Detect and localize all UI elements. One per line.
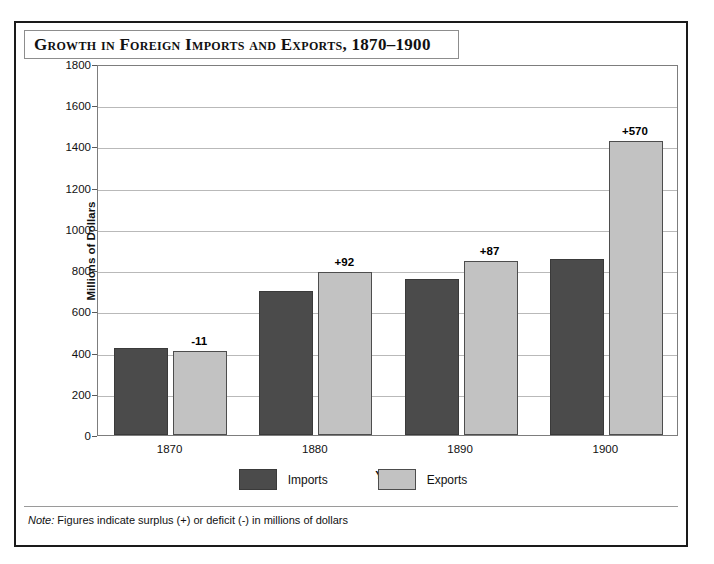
gridline <box>98 231 677 232</box>
y-tick-mark <box>92 271 97 272</box>
x-tick-label-1900: 1900 <box>545 443 665 455</box>
bar-annotation-1870: -11 <box>154 335 244 347</box>
y-tick-label: 1200 <box>31 183 91 195</box>
bar-exports-1870 <box>173 351 227 435</box>
y-tick-mark <box>92 189 97 190</box>
y-tick-mark <box>92 230 97 231</box>
bar-exports-1890 <box>464 261 518 435</box>
bar-imports-1870 <box>114 348 168 435</box>
y-tick-label: 1600 <box>31 100 91 112</box>
y-tick-label: 1000 <box>31 224 91 236</box>
y-tick-mark <box>92 354 97 355</box>
y-tick-label: 400 <box>31 348 91 360</box>
chart-legend: ImportsExports <box>16 469 690 490</box>
y-tick-mark <box>92 147 97 148</box>
y-tick-mark <box>92 312 97 313</box>
legend-label-exports: Exports <box>427 473 468 487</box>
plot-area <box>97 65 678 436</box>
bar-exports-1880 <box>318 272 372 435</box>
legend-entry-exports: Exports <box>378 469 468 490</box>
legend-label-imports: Imports <box>288 473 328 487</box>
gridline <box>98 190 677 191</box>
gridline <box>98 107 677 108</box>
plot-wrapper: Millions of Dollars 02004006008001000120… <box>97 65 678 436</box>
bar-annotation-1880: +92 <box>299 256 389 268</box>
y-tick-mark <box>92 395 97 396</box>
bar-imports-1900 <box>550 259 604 435</box>
bar-imports-1890 <box>405 279 459 435</box>
x-tick-label-1880: 1880 <box>255 443 375 455</box>
y-tick-label: 200 <box>31 389 91 401</box>
chart-note: Note: Figures indicate surplus (+) or de… <box>24 506 678 532</box>
y-tick-label: 1800 <box>31 59 91 71</box>
y-tick-label: 1400 <box>31 141 91 153</box>
bar-imports-1880 <box>259 291 313 435</box>
legend-swatch-imports <box>239 469 277 490</box>
y-tick-label: 600 <box>31 306 91 318</box>
y-tick-label: 0 <box>31 430 91 442</box>
legend-swatch-exports <box>378 469 416 490</box>
chart-figure: Growth in Foreign Imports and Exports, 1… <box>14 21 688 547</box>
bar-exports-1900 <box>609 141 663 435</box>
y-tick-mark <box>92 436 97 437</box>
bar-annotation-1900: +570 <box>590 125 680 137</box>
note-prefix: Note: <box>28 514 54 526</box>
chart-title-box: Growth in Foreign Imports and Exports, 1… <box>24 30 459 59</box>
legend-entry-imports: Imports <box>239 469 328 490</box>
y-axis-label: Millions of Dollars <box>85 201 97 300</box>
x-tick-label-1890: 1890 <box>400 443 520 455</box>
bar-annotation-1890: +87 <box>445 245 535 257</box>
note-body: Figures indicate surplus (+) or deficit … <box>54 514 348 526</box>
gridline <box>98 148 677 149</box>
y-tick-label: 800 <box>31 265 91 277</box>
y-tick-mark <box>92 65 97 66</box>
x-tick-label-1870: 1870 <box>110 443 230 455</box>
page-title: Growth in Foreign Imports and Exports, 1… <box>25 35 431 55</box>
y-tick-mark <box>92 106 97 107</box>
